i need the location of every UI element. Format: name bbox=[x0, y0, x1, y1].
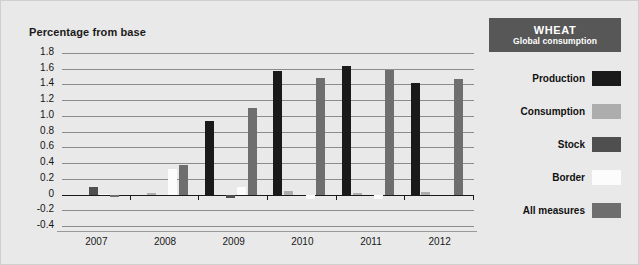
legend-title: WHEAT bbox=[534, 24, 577, 36]
bar-consumption-2012 bbox=[421, 192, 430, 194]
bar-production-2011 bbox=[342, 66, 351, 194]
y-axis-tick-label: 0.2 bbox=[2, 172, 54, 183]
y-axis-tick-label: 0.6 bbox=[2, 140, 54, 151]
x-axis-label-2010: 2010 bbox=[272, 236, 332, 247]
y-axis-tick-label: 1.4 bbox=[2, 77, 54, 88]
bar-border-2007 bbox=[100, 194, 109, 195]
legend-item-label: All measures bbox=[523, 205, 585, 216]
bar-consumption-2010 bbox=[284, 191, 293, 194]
legend-header: WHEAT Global consumption bbox=[489, 18, 621, 52]
bar-all-measures-2007 bbox=[110, 195, 119, 197]
legend-swatch-production bbox=[592, 71, 621, 86]
x-axis-tick bbox=[267, 195, 268, 200]
legend-item-label: Border bbox=[552, 172, 585, 183]
bar-border-2011 bbox=[374, 195, 383, 200]
bar-production-2009 bbox=[205, 121, 214, 194]
bar-border-2008 bbox=[168, 169, 177, 194]
legend-item-consumption[interactable]: Consumption bbox=[489, 103, 621, 119]
y-axis-tick-label: 0 bbox=[2, 188, 54, 199]
bar-all-measures-2012 bbox=[454, 79, 463, 195]
legend-swatch-stock bbox=[592, 137, 621, 152]
bar-stock-2007 bbox=[89, 187, 98, 195]
x-axis-tick bbox=[473, 195, 474, 200]
y-axis-tick-label: 0.4 bbox=[2, 156, 54, 167]
y-axis-tick-label: 0.8 bbox=[2, 125, 54, 136]
legend-swatch-all-measures bbox=[592, 203, 621, 218]
gridline bbox=[62, 69, 474, 70]
legend-item-border[interactable]: Border bbox=[489, 169, 621, 185]
legend-item-all-measures[interactable]: All measures bbox=[489, 202, 621, 218]
bar-production-2010 bbox=[273, 71, 282, 194]
legend-item-production[interactable]: Production bbox=[489, 70, 621, 86]
y-axis-tick-label: -0.4 bbox=[2, 219, 54, 230]
gridline bbox=[62, 226, 474, 227]
x-axis-tick bbox=[404, 195, 405, 200]
legend-item-label: Stock bbox=[558, 139, 585, 150]
gridline bbox=[62, 210, 474, 211]
legend-swatch-border bbox=[592, 170, 621, 185]
y-axis-tick-label: -0.2 bbox=[2, 203, 54, 214]
x-axis-label-2009: 2009 bbox=[204, 236, 264, 247]
plot-area bbox=[62, 53, 474, 226]
bar-all-measures-2008 bbox=[179, 165, 188, 194]
y-axis-labels: 1.81.61.41.21.00.80.60.40.20-0.2-0.4 bbox=[0, 53, 58, 226]
y-axis-tick-label: 1.6 bbox=[2, 62, 54, 73]
y-axis-tick-label: 1.0 bbox=[2, 109, 54, 120]
zero-line bbox=[62, 195, 474, 196]
x-axis-tick bbox=[198, 195, 199, 200]
legend-item-label: Production bbox=[532, 73, 585, 84]
y-axis-tick-label: 1.8 bbox=[2, 46, 54, 57]
legend-item-label: Consumption bbox=[521, 106, 585, 117]
bar-consumption-2008 bbox=[147, 193, 156, 195]
bar-stock-2009 bbox=[226, 195, 235, 198]
x-axis-label-2011: 2011 bbox=[341, 236, 401, 247]
x-axis-tick bbox=[336, 195, 337, 200]
legend-item-stock[interactable]: Stock bbox=[489, 136, 621, 152]
legend-subtitle: Global consumption bbox=[513, 36, 597, 47]
y-axis-tick-label: 1.2 bbox=[2, 93, 54, 104]
bar-production-2012 bbox=[411, 83, 420, 195]
x-axis-baseline bbox=[57, 231, 477, 232]
chart-figure: Percentage from base 1.81.61.41.21.00.80… bbox=[0, 0, 639, 265]
bar-border-2010 bbox=[306, 195, 315, 200]
x-axis-label-2007: 2007 bbox=[66, 236, 126, 247]
bar-border-2009 bbox=[237, 187, 246, 195]
x-axis-label-2012: 2012 bbox=[410, 236, 470, 247]
chart-title: Percentage from base bbox=[29, 26, 146, 38]
gridline bbox=[62, 53, 474, 54]
x-axis-tick bbox=[130, 195, 131, 200]
x-axis-label-2008: 2008 bbox=[135, 236, 195, 247]
legend-swatch-consumption bbox=[592, 104, 621, 119]
bar-consumption-2011 bbox=[353, 193, 362, 195]
bar-all-measures-2010 bbox=[316, 78, 325, 194]
bar-all-measures-2009 bbox=[248, 108, 257, 195]
bar-all-measures-2011 bbox=[385, 70, 394, 195]
legend-panel: WHEAT Global consumption ProductionConsu… bbox=[489, 18, 621, 52]
